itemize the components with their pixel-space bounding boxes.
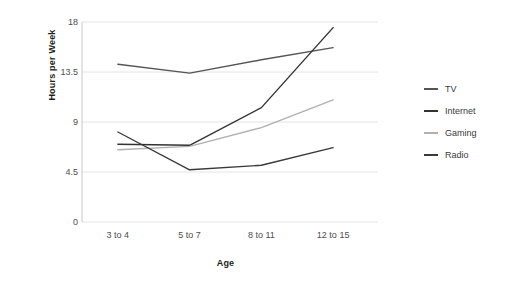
gridlines — [82, 22, 378, 222]
line-chart: Hours per Week 18 13.5 9 4.5 0 3 to 4 5 … — [0, 0, 512, 282]
legend: TV Internet Gaming Radio — [424, 78, 508, 166]
legend-item-tv[interactable]: TV — [424, 78, 508, 100]
series-line-gaming — [118, 100, 333, 150]
legend-item-internet[interactable]: Internet — [424, 100, 508, 122]
legend-item-gaming[interactable]: Gaming — [424, 122, 508, 144]
y-tick-label: 4.5 — [44, 168, 78, 177]
legend-swatch-icon — [424, 110, 438, 112]
y-tick-label: 18 — [44, 18, 78, 27]
legend-swatch-icon — [424, 132, 438, 134]
x-axis-title: Age — [82, 258, 369, 268]
y-tick-label: 0 — [44, 218, 78, 227]
series-line-tv — [118, 48, 333, 74]
x-tick-label: 3 to 4 — [82, 231, 154, 240]
legend-label: Internet — [445, 106, 476, 116]
y-tick-label: 13.5 — [44, 68, 78, 77]
series-line-internet — [118, 28, 333, 146]
x-tick-label: 12 to 15 — [297, 231, 369, 240]
legend-item-radio[interactable]: Radio — [424, 144, 508, 166]
x-tick-label: 5 to 7 — [154, 231, 226, 240]
legend-swatch-icon — [424, 154, 438, 156]
x-tick-label: 8 to 11 — [225, 231, 297, 240]
legend-label: Gaming — [445, 128, 477, 138]
y-tick-label: 9 — [44, 118, 78, 127]
legend-label: Radio — [445, 150, 469, 160]
legend-swatch-icon — [424, 88, 438, 90]
series-lines — [118, 28, 333, 170]
legend-label: TV — [445, 84, 457, 94]
